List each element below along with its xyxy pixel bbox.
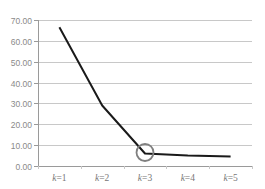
y-tick-label: 0.00 bbox=[15, 162, 32, 172]
x-tick-label: k=3 bbox=[138, 173, 153, 183]
y-tick-label: 20.00 bbox=[11, 120, 33, 130]
series-line bbox=[59, 27, 230, 156]
y-tick-label: 10.00 bbox=[11, 141, 33, 151]
gridlines bbox=[38, 21, 252, 146]
y-axis-tick-labels: 0.0010.0020.0030.0040.0050.0060.0070.00 bbox=[11, 16, 33, 172]
x-tick-label: k=4 bbox=[181, 173, 196, 183]
x-tick-label: k=1 bbox=[52, 173, 67, 183]
series-polyline bbox=[59, 27, 230, 156]
y-tick-label: 50.00 bbox=[11, 58, 33, 68]
x-tick-label: k=5 bbox=[223, 173, 238, 183]
elbow-line-chart: 0.0010.0020.0030.0040.0050.0060.0070.00 … bbox=[0, 0, 265, 189]
y-tick-label: 30.00 bbox=[11, 99, 33, 109]
x-tick-label: k=2 bbox=[95, 173, 110, 183]
x-axis-tick-labels: k=1k=2k=3k=4k=5 bbox=[52, 173, 238, 183]
y-tick-label: 60.00 bbox=[11, 37, 33, 47]
y-tick-label: 40.00 bbox=[11, 79, 33, 89]
y-tick-label: 70.00 bbox=[11, 16, 33, 26]
